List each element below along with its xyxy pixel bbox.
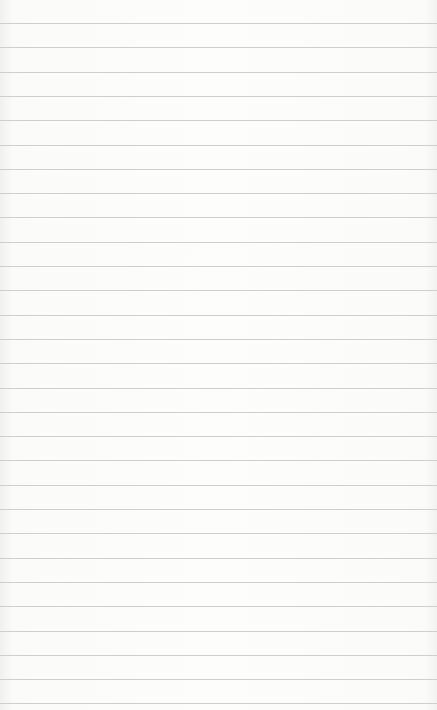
ruled-line xyxy=(0,363,437,364)
ruled-line xyxy=(0,509,437,510)
ruled-line xyxy=(0,23,437,24)
ruled-line xyxy=(0,460,437,461)
ruled-line xyxy=(0,217,437,218)
ruled-line xyxy=(0,120,437,121)
ruled-line xyxy=(0,655,437,656)
ruled-line xyxy=(0,145,437,146)
ruled-line xyxy=(0,315,437,316)
ruled-line xyxy=(0,606,437,607)
ruled-line xyxy=(0,339,437,340)
ruled-line xyxy=(0,242,437,243)
ruled-line xyxy=(0,266,437,267)
ruled-line xyxy=(0,436,437,437)
ruled-line xyxy=(0,169,437,170)
ruled-line xyxy=(0,582,437,583)
ruled-line xyxy=(0,485,437,486)
ruled-line xyxy=(0,679,437,680)
lined-paper xyxy=(0,0,437,710)
ruled-line xyxy=(0,290,437,291)
ruled-line xyxy=(0,703,437,704)
ruled-line xyxy=(0,631,437,632)
ruled-line xyxy=(0,72,437,73)
ruled-line xyxy=(0,96,437,97)
ruled-line xyxy=(0,533,437,534)
ruled-line xyxy=(0,388,437,389)
ruled-line xyxy=(0,47,437,48)
ruled-line xyxy=(0,193,437,194)
ruled-line xyxy=(0,412,437,413)
ruled-line xyxy=(0,558,437,559)
